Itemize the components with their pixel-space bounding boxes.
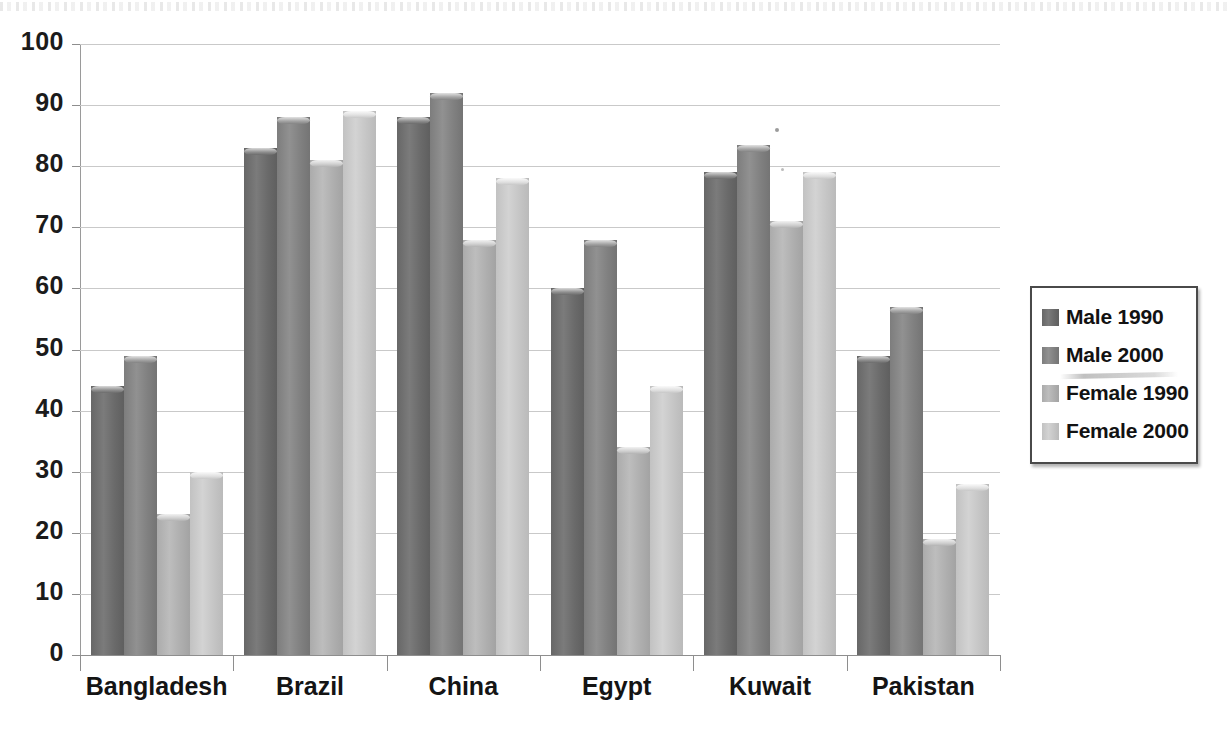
bar[interactable] [157,514,190,655]
bar-cap [704,172,737,179]
legend-swatch-icon [1042,423,1059,440]
bar-group-bars [91,44,223,655]
bar[interactable] [430,93,463,655]
bar-cap [650,386,683,393]
x-tick-mark [847,655,848,671]
bar-cap [737,145,770,152]
bar-group [91,44,223,655]
bar-group-bars [244,44,376,655]
bar[interactable] [890,307,923,655]
plot-area [80,44,1000,655]
bar-cap [343,111,376,118]
bar[interactable] [617,447,650,655]
bar[interactable] [496,178,529,655]
scan-speck [775,128,779,132]
bar-cap [584,240,617,247]
bar[interactable] [244,148,277,655]
bar-cap [923,539,956,546]
bar-group [704,44,836,655]
bar[interactable] [737,145,770,655]
legend-label: Female 1990 [1066,381,1189,405]
y-tick-label: 50 [2,333,64,362]
bar-cap [463,240,496,247]
x-tick-mark [387,655,388,671]
x-tick-mark [540,655,541,671]
legend-label: Male 1990 [1066,305,1163,329]
bar-cap [857,356,890,363]
x-tick-mark [233,655,234,671]
bar[interactable] [770,221,803,655]
legend-label: Female 2000 [1066,419,1189,443]
bar[interactable] [343,111,376,655]
y-tick-label: 60 [2,271,64,300]
legend-label: Male 2000 [1066,343,1163,367]
legend-swatch-icon [1042,347,1059,364]
x-tick-mark [80,655,81,671]
bar-cap [956,484,989,491]
bar[interactable] [190,472,223,655]
bar-cap [190,472,223,479]
bar-group [551,44,683,655]
x-tick-mark [693,655,694,671]
bar-group-bars [857,44,989,655]
bar[interactable] [91,386,124,655]
x-tick-mark [1000,655,1001,671]
x-category-label: Pakistan [813,672,1033,701]
bar-cap [430,93,463,100]
bar[interactable] [124,356,157,655]
bar[interactable] [857,356,890,655]
bar-group-bars [397,44,529,655]
bar[interactable] [397,117,430,655]
y-tick-label: 0 [2,638,64,667]
bar[interactable] [803,172,836,655]
bar[interactable] [277,117,310,655]
bar-group [244,44,376,655]
bar-group-bars [704,44,836,655]
bar-cap [770,221,803,228]
bar[interactable] [310,160,343,655]
bar[interactable] [923,539,956,655]
y-tick-label: 30 [2,455,64,484]
bar-cap [91,386,124,393]
legend-item[interactable]: Male 2000 [1042,336,1188,374]
legend-swatch-icon [1042,385,1059,402]
bar-cap [277,117,310,124]
bar[interactable] [650,386,683,655]
legend-item[interactable]: Male 1990 [1042,298,1188,336]
bar-cap [397,117,430,124]
y-tick-label: 40 [2,394,64,423]
bar-cap [124,356,157,363]
bar-cap [244,148,277,155]
y-tick-label: 90 [2,88,64,117]
y-tick-label: 80 [2,149,64,178]
y-tick-label: 100 [2,27,64,56]
legend-swatch-icon [1042,309,1059,326]
bar[interactable] [463,240,496,655]
bar[interactable] [584,240,617,655]
legend-item[interactable]: Female 1990 [1042,374,1188,412]
y-tick-label: 10 [2,577,64,606]
grouped-bar-chart: 0102030405060708090100 BangladeshBrazilC… [0,0,1230,742]
bar-cap [890,307,923,314]
bar-cap [551,288,584,295]
bar[interactable] [704,172,737,655]
bar-cap [310,160,343,167]
legend-item[interactable]: Female 2000 [1042,412,1188,450]
bar-cap [617,447,650,454]
bar-group [397,44,529,655]
y-tick-label: 20 [2,516,64,545]
scan-speck [781,168,784,171]
bar[interactable] [551,288,584,655]
bar-group-bars [551,44,683,655]
bar[interactable] [956,484,989,655]
bar-cap [803,172,836,179]
bar-group [857,44,989,655]
y-tick-label: 70 [2,210,64,239]
bar-cap [157,514,190,521]
bar-cap [496,178,529,185]
